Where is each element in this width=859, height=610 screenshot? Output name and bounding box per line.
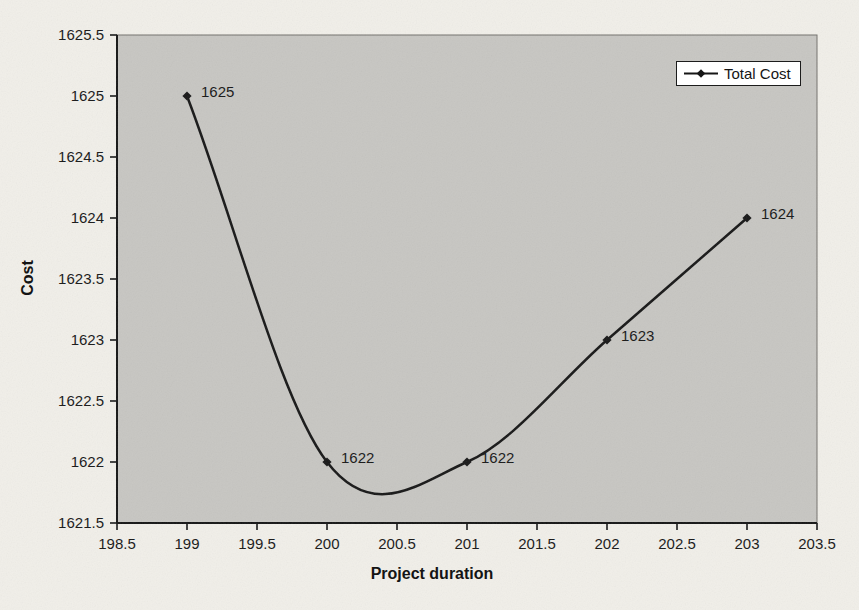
x-tick-label: 200 [314,535,339,552]
x-tick-label: 199.5 [238,535,276,552]
x-tick-label: 198.5 [98,535,136,552]
x-tick-label: 203 [734,535,759,552]
x-tick-label: 201.5 [518,535,556,552]
legend-line-marker-icon [684,68,718,79]
y-tick-label: 1624 [71,209,104,226]
chart-canvas: 1621.516221622.516231623.516241624.51625… [0,0,859,610]
data-point-label: 1624 [761,205,794,222]
chart: 1621.516221622.516231623.516241624.51625… [0,0,859,610]
y-tick-label: 1624.5 [58,148,104,165]
data-point-label: 1623 [621,327,654,344]
y-axis-title: Cost [19,260,37,296]
y-tick-label: 1625 [71,87,104,104]
x-tick-label: 202.5 [658,535,696,552]
data-point-label: 1625 [201,83,234,100]
legend-label: Total Cost [724,65,791,82]
x-tick-label: 202 [594,535,619,552]
y-tick-label: 1625.5 [58,26,104,43]
data-point-label: 1622 [341,449,374,466]
plot-area [117,35,817,523]
y-tick-label: 1623.5 [58,270,104,287]
y-tick-label: 1622.5 [58,392,104,409]
x-axis-title: Project duration [371,565,494,583]
x-tick-label: 203.5 [798,535,836,552]
data-point-label: 1622 [481,449,514,466]
x-tick-label: 199 [174,535,199,552]
y-tick-label: 1622 [71,453,104,470]
x-tick-label: 200.5 [378,535,416,552]
x-tick-label: 201 [454,535,479,552]
y-tick-label: 1623 [71,331,104,348]
legend: Total Cost [676,61,801,86]
y-tick-label: 1621.5 [58,514,104,531]
